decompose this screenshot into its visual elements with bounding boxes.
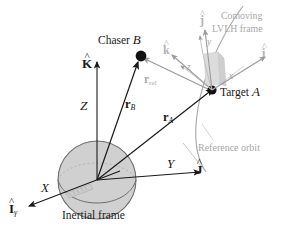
- vector-rA-sub: A: [169, 116, 174, 125]
- local-axis-y-text: y: [207, 37, 211, 47]
- comoving-frame-label-line1: Comoving: [221, 11, 262, 21]
- comoving-line2-text: LVLH frame: [212, 23, 263, 34]
- vector-rrel-label: rrel: [144, 74, 157, 87]
- chaser-body-dot: [136, 51, 147, 62]
- axis-Y-label: Y: [167, 157, 174, 170]
- vector-rB-label: rB: [125, 98, 135, 112]
- chaser-label: Chaser B: [98, 33, 141, 47]
- target-label-text: Target: [220, 86, 249, 98]
- reference-orbit-leader: [202, 124, 213, 140]
- unit-vector-J-label: ^ J: [196, 163, 203, 176]
- hat-mark-j: ^: [200, 9, 204, 19]
- unit-vector-K-label: ^ K: [82, 57, 92, 70]
- target-label: Target A: [220, 85, 260, 99]
- chaser-label-text: Chaser: [98, 34, 130, 46]
- target-body-letter: A: [252, 84, 260, 99]
- unit-vector-j-label: ^ j: [200, 14, 204, 26]
- target-spacecraft-icon: [204, 52, 226, 86]
- axis-Y-text: Y: [167, 156, 174, 171]
- chaser-body-letter: B: [133, 32, 141, 47]
- vernal-equinox-gamma: γ: [14, 208, 17, 217]
- unit-vector-i-label: ^ i: [262, 47, 265, 59]
- reference-orbit-label: Reference orbit: [198, 143, 260, 153]
- comoving-line1-text: Comoving: [221, 10, 262, 21]
- hat-mark-i: ^: [262, 42, 265, 52]
- vector-rB-sub: B: [131, 103, 136, 112]
- axis-X-label: X: [41, 181, 49, 194]
- vector-rA-label: rA: [163, 111, 173, 125]
- hat-mark-k: ^: [163, 39, 170, 49]
- unit-vector-k-label: ^ k: [163, 44, 170, 56]
- axis-Z-text: Z: [80, 98, 88, 113]
- relative-motion-diagram: Chaser B Target A Comoving LVLH frame Re…: [0, 0, 295, 233]
- axis-X-text: X: [41, 180, 49, 195]
- comoving-frame-label-line2: LVLH frame: [212, 24, 263, 34]
- vector-rrel-sub: rel: [149, 79, 157, 87]
- local-axis-z-label: z: [187, 63, 191, 73]
- inertial-frame-text: Inertial frame: [62, 209, 125, 221]
- hat-mark-J: ^: [196, 157, 203, 168]
- local-axis-x-text: x: [229, 71, 233, 81]
- local-axis-x-label: x: [229, 72, 233, 82]
- local-axis-y-label: y: [207, 38, 211, 48]
- unit-vector-I-label: ^ I γ: [9, 202, 17, 217]
- local-axis-z-text: z: [187, 62, 191, 72]
- reference-orbit-text: Reference orbit: [198, 142, 260, 153]
- inertial-frame-label: Inertial frame: [62, 210, 125, 222]
- diagram-canvas: [0, 0, 295, 233]
- hat-mark-I: ^: [9, 196, 14, 207]
- hat-mark-K: ^: [82, 51, 92, 62]
- axis-Z-label: Z: [80, 99, 88, 113]
